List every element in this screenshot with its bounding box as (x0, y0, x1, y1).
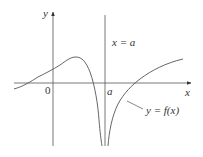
origin-label: 0 (45, 84, 51, 96)
x-axis-label: x (184, 86, 190, 98)
asymptote-label: x = a (111, 36, 136, 48)
curve-right-branch (108, 59, 183, 146)
curve-left-branch (14, 57, 102, 146)
graph-canvas: y x 0 a x = a y = f(x) (0, 0, 203, 157)
curve-label: y = f(x) (145, 104, 179, 117)
y-axis-label: y (42, 7, 48, 19)
x-tick-label-a: a (107, 85, 113, 97)
label-pointer (127, 101, 143, 109)
